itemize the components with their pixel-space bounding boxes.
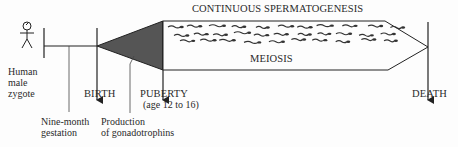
gonadotrophin-pointer <box>130 56 134 113</box>
sperm-head <box>394 40 398 42</box>
sperm-head <box>180 26 184 28</box>
gestation-label-line-2: gestation <box>41 127 77 138</box>
sperm-head <box>224 34 228 36</box>
meiosis-label: MEIOSIS <box>250 53 293 64</box>
sperm-head <box>308 33 312 35</box>
sperm-head <box>213 39 217 41</box>
sperm-head <box>257 41 261 43</box>
zygote-label-line-2: male <box>8 77 27 88</box>
sperm-head <box>265 34 269 36</box>
zygote-label-line-3: zygote <box>8 88 35 99</box>
death-label: DEATH <box>412 88 447 99</box>
sperm-head <box>354 25 358 27</box>
sperm-head <box>266 26 270 28</box>
gestation-label-line-1: Nine-month <box>41 116 89 127</box>
sperm-head <box>247 32 251 34</box>
sperm-head <box>392 33 396 35</box>
sperm-head <box>281 41 285 43</box>
sperm-head <box>205 33 209 35</box>
sperm-head <box>198 25 202 27</box>
sperm-head <box>242 26 246 28</box>
gonadotrophins-label-line-2: of gonadotrophins <box>101 127 174 138</box>
puberty-label: PUBERTY <box>140 88 188 99</box>
sperm-head <box>348 33 352 35</box>
sperm-head <box>346 41 350 43</box>
sperm-head <box>290 25 294 27</box>
sperm-head <box>309 26 313 28</box>
sperm-head <box>330 24 334 26</box>
sperm-head <box>222 25 226 27</box>
sperm-head <box>302 38 306 40</box>
sperm-head <box>370 34 374 36</box>
spermatogenesis-band <box>163 21 428 70</box>
sperm-head <box>379 25 383 27</box>
sperm-head <box>401 26 405 28</box>
puberty-age-label: (age 12 to 16) <box>143 99 199 110</box>
sperm-head <box>327 33 331 35</box>
sperm-head <box>323 39 327 41</box>
sperm-head <box>372 38 376 40</box>
title-continuous-spermatogenesis: CONTINUOUS SPERMATOGENESIS <box>192 3 363 14</box>
gonadotrophin-wedge <box>97 21 163 70</box>
sperm-head <box>232 39 236 41</box>
birth-label: BIRTH <box>84 88 115 99</box>
sperm-head <box>191 40 195 42</box>
stick-figure-icon <box>20 22 34 48</box>
zygote-label-line-1: Human <box>8 66 37 77</box>
sperm-head <box>285 33 289 35</box>
gonadotrophins-label-line-1: Production <box>101 116 145 127</box>
sperm-head <box>185 34 189 36</box>
